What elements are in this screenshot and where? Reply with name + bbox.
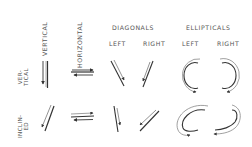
symbols-canvas bbox=[0, 0, 252, 147]
inclined-horizontal-symbol bbox=[71, 113, 94, 120]
inclined-elliptical-right-symbol bbox=[214, 105, 240, 134]
vertical-vertical-symbol bbox=[43, 61, 48, 88]
inclined-diagonal-right-symbol bbox=[140, 110, 159, 131]
inclined-vertical-symbol bbox=[42, 105, 54, 131]
vertical-horizontal-symbol bbox=[71, 70, 94, 75]
vertical-elliptical-left-symbol bbox=[182, 59, 200, 92]
vertical-diagonal-right-symbol bbox=[143, 61, 153, 87]
vertical-elliptical-right-symbol bbox=[220, 59, 239, 92]
inclined-elliptical-left-symbol bbox=[177, 105, 208, 135]
inclined-diagonal-left-symbol bbox=[114, 106, 120, 132]
vertical-diagonal-left-symbol bbox=[111, 60, 124, 86]
